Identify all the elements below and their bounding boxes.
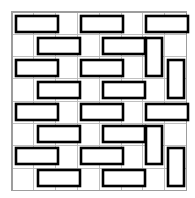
brick-horizontal	[103, 38, 145, 54]
brick-horizontal	[81, 104, 123, 120]
brick-horizontal	[38, 170, 80, 186]
brick-horizontal	[16, 148, 58, 164]
brick-horizontal	[81, 60, 123, 76]
brick-horizontal	[16, 16, 58, 32]
brick-horizontal	[38, 82, 80, 98]
brick-horizontal	[16, 60, 58, 76]
brick-horizontal	[38, 38, 80, 54]
brick-vertical	[146, 126, 162, 164]
brick-vertical	[168, 148, 184, 186]
brick-horizontal	[81, 16, 123, 32]
pattern-canvas	[0, 0, 195, 198]
brick-vertical	[146, 38, 162, 76]
brick-horizontal	[146, 104, 188, 120]
brick-vertical	[168, 60, 184, 98]
brick-horizontal	[103, 170, 145, 186]
brick-horizontal	[103, 126, 145, 142]
brick-horizontal	[38, 126, 80, 142]
brick-horizontal	[146, 16, 188, 32]
brick-horizontal	[16, 104, 58, 120]
brick-horizontal	[81, 148, 123, 164]
brick-pattern-figure	[0, 0, 195, 198]
brick-horizontal	[103, 82, 145, 98]
